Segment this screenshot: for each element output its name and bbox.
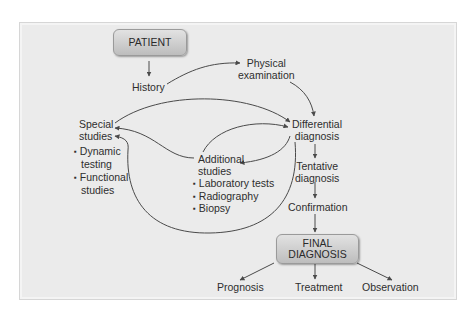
functional-line1: Functional [74,172,128,185]
item-laboratory-tests: Laboratory tests [193,178,274,191]
physical-examination-node: Physical examination [238,58,295,81]
edge-final-observation [357,263,392,280]
differential-diagnosis-node: Differential diagnosis [292,119,342,142]
observation-label: Observation [362,281,419,293]
edge-history-physical [167,63,240,84]
edge-differential-additional [240,136,290,163]
additional-line2: studies [198,166,244,178]
dynamic-line2: testing [74,159,121,171]
confirmation-label: Confirmation [288,201,348,213]
edge-special-differential [115,99,290,123]
differential-line1: Differential [292,119,342,131]
edge-physical-differential [290,82,314,116]
physical-line2: examination [238,70,295,82]
final-line2: DIAGNOSIS [288,249,346,261]
physical-line1: Physical [238,58,295,70]
special-studies-item-dynamic: Dynamic testing [74,146,121,170]
prognosis-node: Prognosis [217,282,264,294]
dynamic-line1: Dynamic [74,146,121,159]
treatment-node: Treatment [295,282,342,294]
additional-studies-items: Laboratory tests Radiography Biopsy [193,178,274,216]
tentative-line2: diagnosis [295,173,339,185]
edge-additional-differential [203,124,288,152]
functional-line2: studies [74,185,128,197]
tentative-diagnosis-node: Tentative diagnosis [295,161,339,184]
differential-line2: diagnosis [292,131,342,143]
confirmation-node: Confirmation [288,202,348,214]
tentative-line1: Tentative [295,161,339,173]
edge-final-prognosis [240,263,274,280]
additional-studies-node: Additional studies [198,154,244,177]
history-node: History [132,82,165,94]
special-studies-node: Special studies [79,119,113,142]
history-label: History [132,81,165,93]
patient-label: PATIENT [129,37,172,49]
final-diagnosis-box: FINAL DIAGNOSIS [276,234,359,264]
patient-box: PATIENT [113,29,187,56]
additional-line1: Additional [198,154,244,166]
item-biopsy: Biopsy [193,203,274,216]
treatment-label: Treatment [295,281,342,293]
special-studies-item-functional: Functional studies [74,172,128,196]
special-line1: Special [79,119,113,131]
special-line2: studies [79,131,113,143]
observation-node: Observation [362,282,419,294]
prognosis-label: Prognosis [217,281,264,293]
